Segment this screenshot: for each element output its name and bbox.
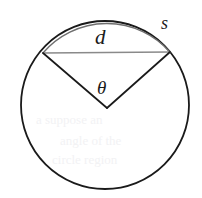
radius-line-right xyxy=(107,52,170,108)
circle-geometry-figure: a suppose an angle of the circle region … xyxy=(0,0,202,198)
arc-label-s: s xyxy=(161,14,168,32)
angle-label-theta: θ xyxy=(97,78,106,97)
arc-segment-s xyxy=(43,23,170,53)
chord-line-d xyxy=(43,52,170,53)
chord-label-d: d xyxy=(95,27,106,48)
